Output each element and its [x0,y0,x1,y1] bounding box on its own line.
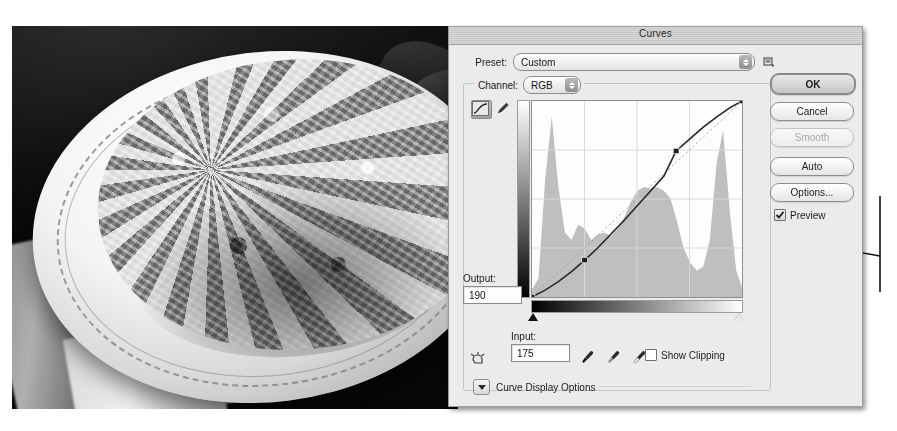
curve-display-options-row[interactable]: Curve Display Options [473,379,595,395]
dialog-buttons: OK Cancel Smooth Auto Options... Preview [770,73,852,221]
preview-checkbox[interactable] [774,209,786,221]
white-point-slider[interactable] [734,313,744,321]
output-block: Output: 190 [463,273,522,304]
channel-dropdown[interactable]: RGB [523,76,581,94]
cancel-button[interactable]: Cancel [770,102,854,121]
pasta-photo [12,26,458,409]
input-block: Input: 175 [511,331,570,362]
channel-value: RGB [524,80,553,91]
chevron-updown-icon [739,55,752,69]
black-point-slider[interactable] [528,313,538,321]
preview-row[interactable]: Preview [770,209,852,221]
output-gradient-strip [517,100,530,298]
output-label: Output: [463,273,522,284]
smooth-button: Smooth [770,128,854,147]
ok-button[interactable]: OK [770,73,856,95]
preset-label: Preset: [463,57,507,68]
black-point-eyedropper[interactable] [581,350,595,365]
curve-display-options-label: Curve Display Options [496,382,595,393]
output-input[interactable]: 190 [463,286,522,304]
show-clipping-label: Show Clipping [661,350,725,361]
input-input[interactable]: 175 [511,344,570,362]
input-gradient-strip [531,300,743,313]
gray-point-eyedropper[interactable] [607,350,621,365]
preset-dropdown[interactable]: Custom [513,53,755,71]
pencil-icon[interactable] [495,100,511,116]
curves-dialog: Curves Preset: Custom Channel: R [448,26,863,407]
show-clipping-row[interactable]: Show Clipping [645,349,725,361]
chevron-updown-icon [565,78,578,92]
curve-plot[interactable] [531,100,743,298]
eyedropper-group [581,350,647,365]
preview-label: Preview [790,210,826,221]
auto-button[interactable]: Auto [770,157,854,176]
channel-label: Channel: [478,80,518,91]
show-clipping-checkbox[interactable] [645,349,657,361]
divider [599,386,751,387]
on-image-adjustment-icon[interactable] [469,351,487,367]
options-button[interactable]: Options... [770,183,854,202]
preset-menu-icon[interactable] [763,56,775,68]
dialog-title: Curves [449,28,862,39]
input-label: Input: [511,331,570,342]
chevron-down-icon[interactable] [473,379,490,395]
preset-row: Preset: Custom [463,53,852,71]
preset-value: Custom [514,57,555,68]
curve-edit-icon[interactable] [471,100,492,119]
dialog-title-bar[interactable]: Curves [449,27,862,45]
channel-row: Channel: RGB [475,76,584,94]
